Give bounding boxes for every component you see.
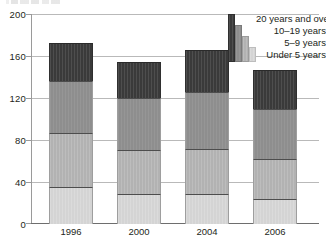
x-tick-label-1996: 1996 (60, 226, 81, 237)
bar-segment-2000-20-and-over[interactable] (117, 62, 161, 98)
clipped-header-text (6, 0, 60, 4)
legend-label-5-9: 5–9 years (256, 37, 326, 49)
bar-segment-2004-10-19[interactable] (185, 92, 229, 149)
bar-segment-2006-20-and-over[interactable] (253, 70, 297, 109)
legend-swatch-under-5 (249, 47, 256, 62)
y-axis-labels: 200 160 120 80 40 0 (0, 14, 26, 224)
legend-label-10-19: 10–19 years (256, 25, 326, 37)
legend-swatch-20-and-over (228, 14, 235, 62)
x-tick-label-2000: 2000 (128, 226, 149, 237)
bar-2000[interactable] (117, 62, 161, 224)
bar-segment-2004-5-9[interactable] (185, 149, 229, 194)
bar-segment-1996-10-19[interactable] (49, 81, 93, 133)
bar-segment-1996-20-and-over[interactable] (49, 43, 93, 81)
x-tick-label-2004: 2004 (196, 226, 217, 237)
legend-swatch-10-19 (235, 25, 242, 62)
y-axis-line (31, 14, 32, 224)
x-axis-labels: 1996 2000 2004 2006 (31, 226, 319, 241)
y-tick-label-160: 160 (10, 51, 26, 62)
legend-label-20-and-over: 20 years and over (256, 13, 326, 25)
y-tick-label-200: 200 (10, 9, 26, 20)
legend-swatch-group (228, 14, 256, 62)
legend-label-group: 20 years and over 10–19 years 5–9 years … (256, 13, 326, 61)
y-tick-label-120: 120 (10, 93, 26, 104)
bar-segment-2000-under-5[interactable] (117, 194, 161, 224)
bar-segment-2000-5-9[interactable] (117, 150, 161, 194)
legend-swatch-5-9 (242, 36, 249, 62)
stacked-bar-chart: 200 160 120 80 40 0 (0, 0, 326, 241)
bar-segment-2006-under-5[interactable] (253, 199, 297, 224)
bar-segment-1996-under-5[interactable] (49, 187, 93, 224)
legend-label-under-5: Under 5 years (256, 49, 326, 61)
y-tick-label-40: 40 (15, 177, 26, 188)
chart-legend: 20 years and over 10–19 years 5–9 years … (228, 14, 326, 64)
bar-segment-2004-under-5[interactable] (185, 194, 229, 224)
x-tick-label-2006: 2006 (264, 226, 285, 237)
y-tick-label-80: 80 (15, 135, 26, 146)
y-tick-label-0: 0 (21, 219, 26, 230)
bar-segment-2006-10-19[interactable] (253, 109, 297, 159)
bar-segment-2000-10-19[interactable] (117, 98, 161, 150)
bar-2004[interactable] (185, 50, 229, 224)
bar-segment-2006-5-9[interactable] (253, 159, 297, 199)
bar-2006[interactable] (253, 70, 297, 224)
bar-1996[interactable] (49, 43, 93, 224)
bar-segment-2004-20-and-over[interactable] (185, 50, 229, 92)
bar-segment-1996-5-9[interactable] (49, 133, 93, 187)
